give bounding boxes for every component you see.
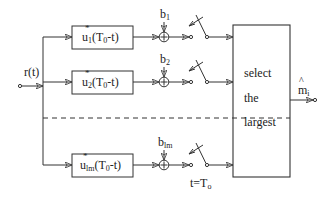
filter-arg: (T	[92, 30, 103, 44]
sampler-sub: o	[207, 182, 211, 191]
decision-line-1: select	[244, 67, 271, 79]
decision-line-3: largest	[244, 116, 276, 128]
input-terminal	[18, 84, 21, 87]
conjugate-mark: *	[85, 69, 90, 78]
decision-box	[233, 25, 290, 177]
bias-sub: 2	[166, 58, 170, 67]
bias-sub: 1	[166, 13, 170, 22]
output-sub: i	[307, 89, 309, 98]
filter-label-2: u2(T0-t) *	[82, 76, 119, 90]
filter-arg-end: -t)	[107, 75, 118, 89]
bias-sub: lm	[164, 141, 172, 150]
sampler-switch-2	[189, 60, 209, 84]
output-label: mi ^	[298, 84, 310, 98]
input-label: r(t)	[24, 66, 39, 78]
decision-line-2: the	[244, 92, 259, 104]
block-diagram-lines	[0, 0, 331, 197]
conjugate-mark: *	[83, 152, 88, 161]
conjugate-mark: *	[85, 24, 90, 33]
bias-label-1: b1	[160, 8, 170, 22]
diagram-canvas: r(t) u1(T0-t) * u2(T0-t) * ulm(T0-t) * b…	[0, 0, 331, 197]
filter-label-lm: ulm(T0-t) *	[80, 159, 121, 173]
filter-arg-end: -t)	[107, 30, 118, 44]
sampler-text: t=T	[190, 176, 207, 190]
sampler-switch-1	[189, 15, 209, 39]
output-hat: ^	[299, 76, 304, 86]
filter-arg-end: -t)	[110, 158, 121, 172]
filter-label-1: u1(T0-t) *	[82, 31, 119, 45]
bias-label-lm: blm	[158, 136, 172, 150]
filter-arg: (T	[94, 158, 105, 172]
bias-label-2: b2	[160, 53, 170, 67]
sampler-switch-lm	[189, 143, 209, 167]
sampler-label: t=To	[190, 177, 211, 191]
filter-arg: (T	[92, 75, 103, 89]
